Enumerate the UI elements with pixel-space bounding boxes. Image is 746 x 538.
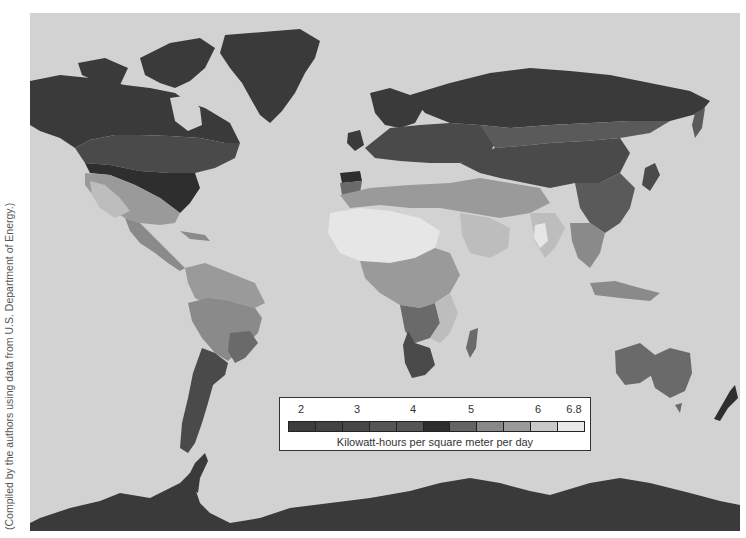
new-zealand [714, 385, 738, 421]
legend-swatch [397, 422, 424, 431]
legend: 2 3 4 5 6 6.8 Kilowatt-hours per square … [279, 397, 591, 451]
japan [642, 163, 660, 191]
legend-swatch [289, 422, 316, 431]
legend-swatch [370, 422, 397, 431]
south-america-south [180, 348, 228, 453]
world-map-svg [30, 13, 740, 531]
legend-caption: Kilowatt-hours per square meter per day [280, 436, 590, 448]
legend-swatch [477, 422, 504, 431]
arctic-islands [140, 38, 215, 88]
legend-swatch [504, 422, 531, 431]
russia-north [410, 68, 710, 128]
australia-west [615, 343, 655, 385]
south-america-central [188, 298, 262, 361]
indonesia [590, 281, 660, 301]
southeast-asia [570, 223, 605, 268]
tasmania [675, 403, 682, 413]
arabia [460, 213, 510, 258]
legend-tick: 5 [468, 403, 474, 415]
legend-swatch [424, 422, 451, 431]
legend-swatch [558, 422, 584, 431]
iberia-dark [340, 171, 362, 183]
antarctica [30, 473, 740, 531]
world-map [30, 13, 740, 531]
uk [347, 130, 364, 151]
legend-tick: 2 [298, 403, 304, 415]
legend-swatch [531, 422, 558, 431]
legend-swatch [343, 422, 370, 431]
source-credit: (Compiled by the authors using data from… [3, 140, 15, 530]
legend-ticks: 2 3 4 5 6 6.8 [280, 403, 590, 417]
legend-tick: 6.8 [566, 403, 581, 415]
australia-east [650, 348, 692, 398]
central-america [125, 218, 185, 271]
legend-swatch [450, 422, 477, 431]
legend-tick: 6 [535, 403, 541, 415]
legend-color-bar [288, 421, 585, 432]
legend-tick: 4 [410, 403, 416, 415]
greenland [220, 29, 320, 123]
legend-tick: 3 [354, 403, 360, 415]
caribbean [180, 231, 210, 241]
legend-swatch [316, 422, 343, 431]
madagascar [466, 328, 478, 358]
